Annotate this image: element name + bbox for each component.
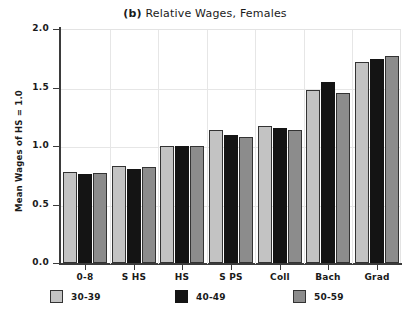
bar-s-hs-30-39 [112, 166, 126, 263]
y-axis-tick-label: 2.0 [9, 23, 49, 33]
gridline-vertical [158, 30, 159, 264]
plot-area [61, 29, 401, 263]
bar-coll-30-39 [258, 126, 272, 263]
gridline-vertical [110, 30, 111, 264]
x-axis-tick [328, 264, 329, 270]
bar-coll-40-49 [273, 128, 287, 263]
chart-title-text: Relative Wages, Females [145, 7, 286, 20]
bar-grad-30-39 [355, 62, 369, 263]
bar-0-8-40-49 [78, 174, 92, 263]
y-axis-tick-label: 1.5 [9, 82, 49, 92]
y-axis-tick [53, 205, 60, 206]
bar-s-ps-40-49 [224, 135, 238, 263]
gridline-vertical [255, 30, 256, 264]
bar-hs-50-59 [190, 146, 204, 263]
x-axis-tick [280, 264, 281, 270]
x-axis-tick [231, 264, 232, 270]
legend-item-40-49: 40-49 [175, 290, 226, 303]
bar-s-hs-40-49 [127, 169, 141, 263]
y-axis-tick-label: 0.0 [9, 257, 49, 267]
bar-hs-30-39 [160, 146, 174, 263]
legend-swatch-icon-50-59 [293, 290, 306, 303]
bar-bach-50-59 [336, 93, 350, 263]
bar-coll-50-59 [288, 130, 302, 263]
legend-swatch-icon-30-39 [50, 290, 63, 303]
x-axis-tick [85, 264, 86, 270]
y-axis-tick-label: 1.0 [9, 140, 49, 150]
bar-bach-30-39 [306, 90, 320, 263]
y-axis-tick [53, 88, 60, 89]
legend-label-30-39: 30-39 [71, 292, 101, 302]
bar-grad-40-49 [370, 59, 384, 263]
gridline-vertical [207, 30, 208, 264]
bar-s-ps-50-59 [239, 137, 253, 263]
bar-grad-50-59 [385, 56, 399, 263]
x-axis-tick [134, 264, 135, 270]
chart-legend: 30-3940-4950-59 [50, 290, 380, 310]
x-axis-tick-label-grad: Grad [347, 272, 407, 282]
legend-item-50-59: 50-59 [293, 290, 344, 303]
gridline-horizontal [61, 89, 401, 90]
legend-item-30-39: 30-39 [50, 290, 101, 303]
y-axis-tick [53, 29, 60, 30]
legend-label-40-49: 40-49 [196, 292, 226, 302]
gridline-vertical [304, 30, 305, 264]
chart-figure: (b) Relative Wages, Females Mean Wages o… [0, 0, 410, 317]
bar-0-8-30-39 [63, 172, 77, 263]
gridline-vertical [352, 30, 353, 264]
bar-s-hs-50-59 [142, 167, 156, 263]
bar-bach-40-49 [321, 82, 335, 263]
x-axis-tick [182, 264, 183, 270]
panel-letter: (b) [123, 7, 142, 20]
bar-s-ps-30-39 [209, 130, 223, 263]
chart-title: (b) Relative Wages, Females [0, 7, 410, 20]
y-axis-tick [53, 263, 60, 264]
legend-swatch-icon-40-49 [175, 290, 188, 303]
x-axis-tick [377, 264, 378, 270]
bar-hs-40-49 [175, 146, 189, 263]
bar-0-8-50-59 [93, 173, 107, 263]
y-axis-tick [53, 146, 60, 147]
y-axis-tick-label: 0.5 [9, 199, 49, 209]
legend-label-50-59: 50-59 [314, 292, 344, 302]
